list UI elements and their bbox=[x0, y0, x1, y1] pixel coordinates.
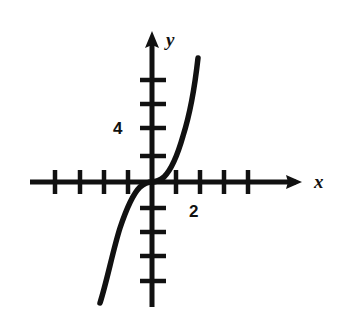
y-tick-label-4: 4 bbox=[113, 120, 122, 137]
graph-figure: y x 4 2 bbox=[0, 0, 340, 321]
x-axis-arrowhead bbox=[286, 175, 302, 189]
x-axis-label: x bbox=[314, 172, 324, 191]
y-axis-label: y bbox=[166, 30, 174, 49]
x-tick-label-2: 2 bbox=[189, 203, 198, 220]
